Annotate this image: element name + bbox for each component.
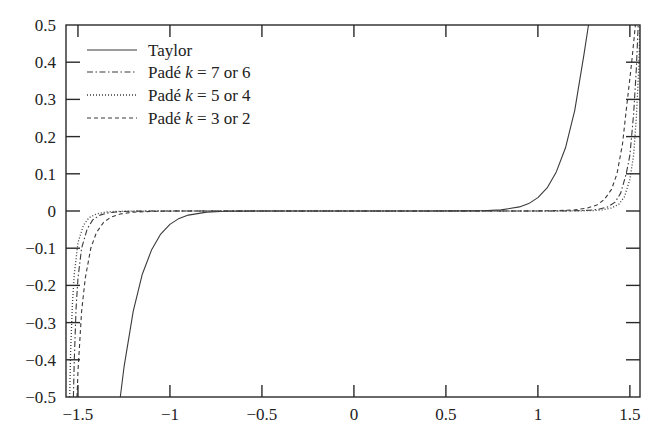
x-tick-label: −1.5 bbox=[63, 405, 94, 424]
x-tick-label: 0 bbox=[350, 405, 359, 424]
legend-label-4: Padé k = 3 or 2 bbox=[148, 109, 251, 128]
y-tick-label: −0.3 bbox=[25, 314, 56, 333]
y-tick-label: −0.2 bbox=[25, 276, 56, 295]
y-tick-label: −0.5 bbox=[25, 388, 56, 407]
legend-label-1: Taylor bbox=[148, 41, 192, 60]
x-tick-label: 1.5 bbox=[619, 405, 640, 424]
y-tick-label: −0.4 bbox=[25, 351, 56, 370]
x-tick-label: 1 bbox=[534, 405, 543, 424]
legend: TaylorPadé k = 7 or 6Padé k = 5 or 4Padé… bbox=[87, 41, 251, 128]
y-tick-label: −0.1 bbox=[25, 239, 56, 258]
x-tick-label: −0.5 bbox=[247, 405, 278, 424]
y-tick-label: 0.1 bbox=[35, 165, 56, 184]
x-axis-ticks: −1.5−1−0.500.511.5 bbox=[63, 25, 641, 424]
x-tick-label: −1 bbox=[161, 405, 179, 424]
y-tick-label: 0.3 bbox=[35, 90, 56, 109]
y-tick-label: 0.2 bbox=[35, 128, 56, 147]
y-tick-label: 0.5 bbox=[35, 16, 56, 35]
legend-label-2: Padé k = 7 or 6 bbox=[148, 63, 251, 82]
chart-figure: −1.5−1−0.500.511.5 0.50.40.30.20.10−0.1−… bbox=[0, 0, 656, 439]
x-tick-label: 0.5 bbox=[435, 405, 456, 424]
legend-label-3: Padé k = 5 or 4 bbox=[148, 86, 251, 105]
y-tick-label: 0.4 bbox=[35, 53, 57, 72]
y-tick-label: 0 bbox=[48, 202, 57, 221]
